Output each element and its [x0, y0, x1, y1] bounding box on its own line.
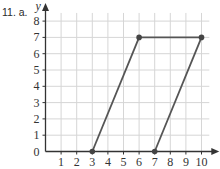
- y-tick-label: 7: [34, 30, 40, 44]
- x-tick-label: 9: [183, 155, 189, 169]
- x-tick-label: 8: [167, 155, 173, 169]
- x-tick-label: 6: [136, 155, 142, 169]
- x-tick-label: 2: [74, 155, 80, 169]
- y-tick-label: 4: [34, 79, 40, 93]
- data-point: [152, 149, 158, 155]
- y-tick-label: 1: [34, 128, 40, 142]
- y-tick-label: 6: [34, 47, 40, 61]
- data-point: [136, 35, 142, 41]
- series-segment: [155, 37, 202, 151]
- x-tick-label: 1: [58, 155, 64, 169]
- x-tick-label: 3: [89, 155, 95, 169]
- data-point: [199, 35, 205, 41]
- y-tick-label: 2: [34, 112, 40, 126]
- y-axis-label: y: [35, 0, 42, 13]
- x-tick-label: 7: [152, 155, 158, 169]
- y-tick-label: 8: [34, 14, 40, 28]
- x-tick-label: 5: [121, 155, 127, 169]
- y-tick-label: 3: [34, 96, 40, 110]
- series-segment: [92, 37, 139, 151]
- chart-plot: 12345678910012345678xy: [0, 0, 220, 168]
- axes: [42, 3, 219, 155]
- x-tick-label: 4: [105, 155, 111, 169]
- x-tick-label: 10: [196, 155, 208, 169]
- y-tick-label: 0: [34, 145, 40, 159]
- x-axis-arrow-icon: [211, 148, 219, 155]
- y-tick-label: 5: [34, 63, 40, 77]
- y-axis-arrow-icon: [42, 3, 49, 11]
- data-point: [90, 149, 96, 155]
- grid-lines: [46, 13, 210, 152]
- data-series: [90, 35, 205, 155]
